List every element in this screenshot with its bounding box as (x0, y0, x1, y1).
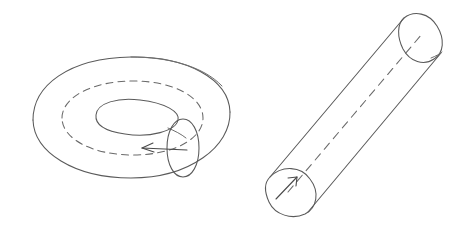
cylinder-lower-wall (308, 53, 441, 212)
cylinder-right-end-ellipse (399, 14, 443, 63)
torus-meridian-arrow-head (142, 143, 154, 152)
cylinder-upper-wall (270, 18, 404, 177)
figure-canvas (0, 0, 468, 230)
cylinder-axis-dashed-line (288, 34, 422, 192)
torus-shape (33, 57, 230, 178)
cylinder-shape (265, 14, 442, 217)
cylinder-axis-arrow-line (276, 177, 297, 199)
torus-core-dashed-circle (62, 81, 203, 155)
torus-inner-hole-ellipse (96, 99, 178, 135)
torus-outer-upper-arc (33, 57, 230, 120)
cylinder-left-end-circle (265, 169, 316, 217)
geometry-figure (0, 0, 468, 230)
